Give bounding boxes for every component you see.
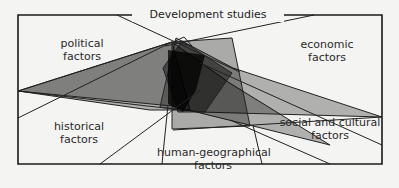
node-historical-line1: historical (37, 120, 121, 133)
node-human-geo-line2: factors (157, 159, 269, 172)
node-economic: economic factors (285, 38, 369, 64)
node-social-line2: factors (275, 129, 385, 142)
node-political-line2: factors (40, 50, 124, 63)
node-political: political factors (40, 37, 124, 63)
node-social-cultural: social and cultural factors (275, 116, 385, 142)
node-social-line1: social and cultural (275, 116, 385, 129)
node-economic-line1: economic (285, 38, 369, 51)
node-human-geographical: human-geographical factors (157, 146, 269, 172)
node-human-geo-line1: human-geographical (157, 146, 269, 159)
node-historical-line2: factors (37, 133, 121, 146)
node-historical: historical factors (37, 120, 121, 146)
diagram-title: Development studies (132, 8, 284, 22)
node-political-line1: political (40, 37, 124, 50)
node-economic-line2: factors (285, 51, 369, 64)
